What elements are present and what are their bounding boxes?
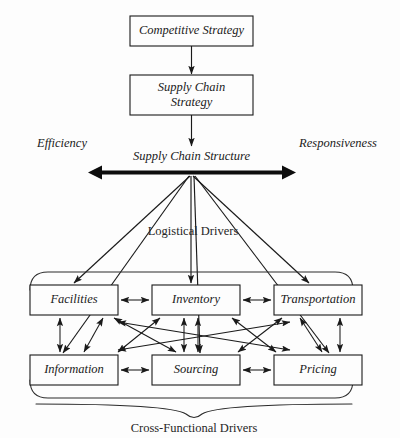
- pricing-box: Pricing: [274, 355, 362, 385]
- pricing-label: Pricing: [298, 362, 337, 376]
- transportation-label: Transportation: [280, 292, 355, 306]
- cross-functional-brace: [36, 404, 352, 418]
- spectrum-right-head: [282, 166, 296, 180]
- supply-chain-structure-label: Supply Chain Structure: [133, 149, 250, 163]
- link-facilities-information-diagonal: [84, 318, 103, 352]
- responsiveness-label: Responsiveness: [298, 136, 377, 150]
- supply-chain-strategy-label-line2: Strategy: [171, 95, 213, 109]
- competitive-strategy-label: Competitive Strategy: [139, 23, 245, 37]
- fan-to-information: [63, 176, 189, 353]
- information-box: Information: [30, 355, 118, 385]
- spectrum-left-head: [88, 166, 102, 180]
- sourcing-box: Sourcing: [152, 355, 240, 385]
- efficiency-label: Efficiency: [36, 136, 87, 150]
- inventory-label: Inventory: [171, 292, 220, 306]
- efficiency-responsiveness-spectrum-arrow: [88, 166, 296, 180]
- sourcing-label: Sourcing: [174, 362, 219, 376]
- diagram-canvas: Competitive Strategy Supply Chain Strate…: [0, 0, 400, 438]
- supply-chain-drivers-diagram: Competitive Strategy Supply Chain Strate…: [0, 0, 400, 438]
- facilities-box: Facilities: [30, 285, 118, 315]
- link-transportation-sourcing: [238, 318, 282, 352]
- inventory-box: Inventory: [152, 285, 240, 315]
- structure-to-drivers-fan: [63, 176, 329, 353]
- competitive-strategy-box: Competitive Strategy: [130, 16, 253, 46]
- transportation-box: Transportation: [274, 285, 362, 315]
- fan-to-sourcing: [194, 176, 200, 353]
- supply-chain-strategy-box: Supply Chain Strategy: [130, 75, 253, 115]
- information-label: Information: [43, 362, 104, 376]
- logistical-drivers-label: Logistical Drivers: [148, 224, 239, 238]
- supply-chain-strategy-label-line1: Supply Chain: [158, 80, 226, 94]
- facilities-label: Facilities: [49, 292, 97, 306]
- link-transportation-pricing-diagonal: [300, 318, 322, 352]
- cross-functional-drivers-label: Cross-Functional Drivers: [131, 421, 258, 435]
